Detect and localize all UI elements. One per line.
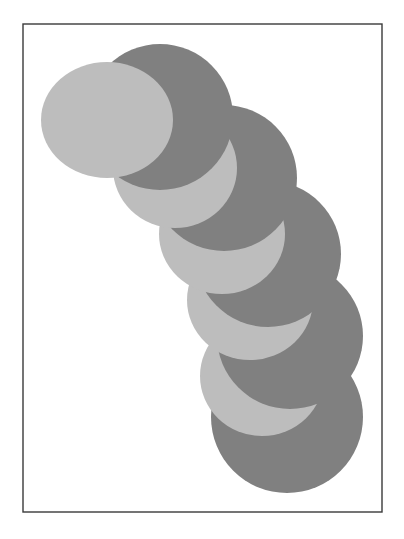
overlapping-circles-figure <box>0 0 404 539</box>
light-circle <box>41 62 173 178</box>
